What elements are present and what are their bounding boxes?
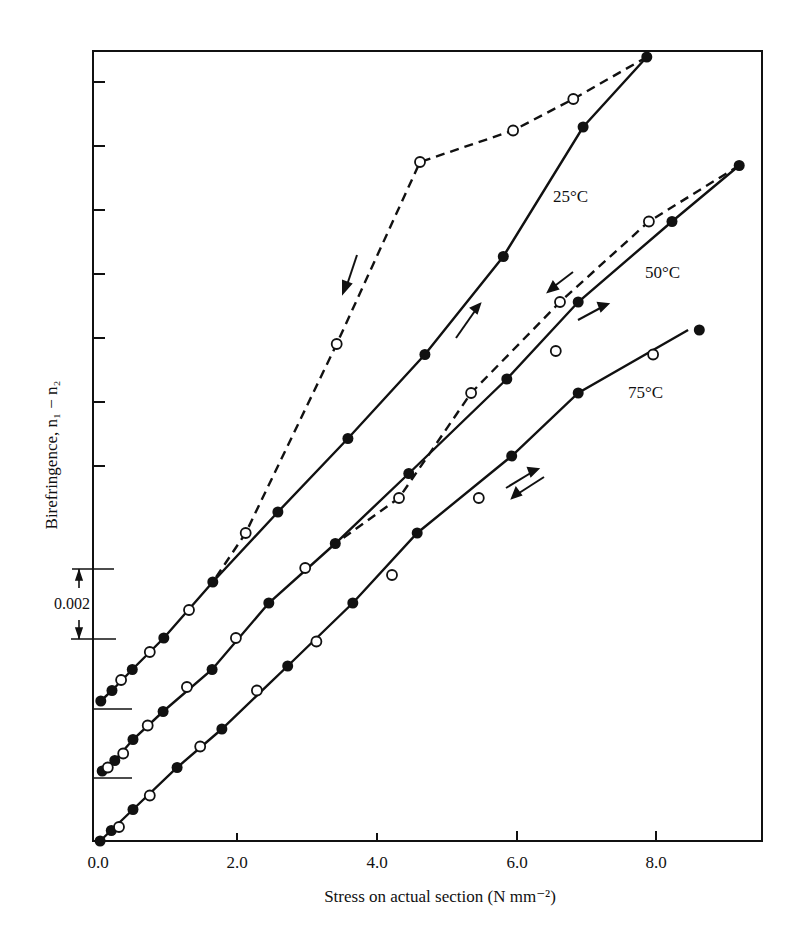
open-marker [466, 388, 476, 398]
filled-marker [347, 598, 358, 609]
filled-marker [158, 706, 169, 717]
filled-marker [263, 598, 274, 609]
open-marker [231, 633, 241, 643]
curve-label-50c: 50°C [645, 263, 680, 283]
filled-marker [573, 297, 584, 308]
open-marker [648, 350, 658, 360]
open-marker [195, 742, 205, 752]
open-marker [474, 493, 484, 503]
y-ticks [93, 82, 105, 466]
open-marker [644, 217, 654, 227]
open-marker [568, 94, 578, 104]
open-marker [182, 682, 192, 692]
filled-marker [501, 374, 512, 385]
filled-marker [412, 528, 423, 539]
open-marker [118, 749, 128, 759]
x-tick-6: 6.0 [506, 853, 527, 873]
x-axis-label: Stress on actual section (N mm⁻²) [324, 886, 556, 907]
x-tick-0: 0.0 [87, 853, 108, 873]
filled-marker [578, 122, 589, 133]
series-75c [95, 325, 705, 847]
loading-line [100, 330, 688, 841]
loading-line [101, 57, 647, 701]
filled-marker [419, 349, 430, 360]
filled-marker [641, 52, 652, 63]
filled-marker [403, 468, 414, 479]
plot-frame [93, 51, 762, 841]
scale-bar-label: 0.002 [54, 595, 90, 613]
curve-label-75c: 75°C [628, 383, 663, 403]
open-marker [555, 297, 565, 307]
open-marker [241, 528, 251, 538]
open-marker [143, 721, 153, 731]
filled-marker [107, 685, 118, 696]
filled-marker [127, 664, 138, 675]
birefringence-chart [0, 0, 800, 938]
x-tick-8: 8.0 [645, 853, 666, 873]
x-tick-2: 2.0 [226, 853, 247, 873]
open-marker [394, 493, 404, 503]
x-ticks [237, 831, 656, 841]
filled-marker [207, 577, 218, 588]
open-marker [300, 563, 310, 573]
filled-marker [95, 836, 106, 847]
x-tick-4: 4.0 [366, 853, 387, 873]
filled-marker [95, 696, 106, 707]
open-marker [116, 675, 126, 685]
open-marker [415, 157, 425, 167]
filled-marker [158, 633, 169, 644]
open-marker [508, 126, 518, 136]
curves [95, 52, 745, 847]
filled-marker [694, 325, 705, 336]
filled-marker [342, 433, 353, 444]
curve-label-25c: 25°C [553, 187, 588, 207]
unloading-line [213, 57, 647, 582]
open-marker [184, 605, 194, 615]
filled-marker [498, 251, 509, 262]
open-marker [145, 791, 155, 801]
open-marker [332, 339, 342, 349]
open-marker [103, 763, 113, 773]
filled-marker [128, 804, 139, 815]
filled-marker [172, 762, 183, 773]
filled-marker [272, 507, 283, 518]
filled-marker [282, 661, 293, 672]
y-axis-label: Birefringence, n₁ − n₂ [42, 381, 62, 530]
series-25c [95, 52, 652, 707]
filled-marker [330, 538, 341, 549]
filled-marker [506, 451, 517, 462]
series-50c [97, 160, 745, 777]
filled-marker [128, 734, 139, 745]
filled-marker [573, 388, 584, 399]
filled-marker [216, 724, 227, 735]
filled-marker [734, 160, 745, 171]
open-marker [551, 346, 561, 356]
open-marker [387, 570, 397, 580]
open-marker [252, 686, 262, 696]
open-marker [145, 647, 155, 657]
filled-marker [207, 664, 218, 675]
open-marker [311, 637, 321, 647]
filled-marker [667, 216, 678, 227]
open-marker [114, 822, 124, 832]
